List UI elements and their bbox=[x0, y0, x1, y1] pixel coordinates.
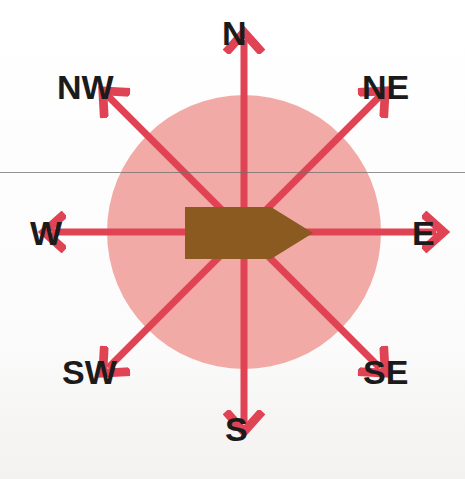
direction-label-n: N bbox=[222, 16, 247, 50]
direction-label-e: E bbox=[412, 216, 435, 250]
compass-diagram: N NE E SE S SW W NW bbox=[0, 0, 465, 479]
direction-label-nw: NW bbox=[57, 70, 114, 104]
direction-label-w: W bbox=[30, 216, 62, 250]
direction-label-s: S bbox=[225, 412, 248, 446]
direction-label-se: SE bbox=[363, 355, 408, 389]
direction-label-ne: NE bbox=[362, 70, 409, 104]
direction-label-sw: SW bbox=[62, 355, 117, 389]
